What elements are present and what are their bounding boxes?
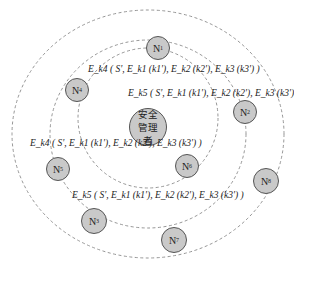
node-n5: N5 — [46, 157, 70, 181]
node-n1: N1 — [146, 36, 170, 60]
node-label: N — [89, 216, 96, 227]
formula-f3: E_k4 ( S', E_k1 (k1'), E_k2 (k2'), E_k3 … — [30, 138, 202, 148]
node-sub: 7 — [176, 237, 179, 243]
node-sub: 6 — [189, 163, 192, 169]
formula-text: E_k5 ( S', E_k1 (k1'), E_k2 (k2'), E_k3 … — [72, 190, 244, 200]
formula-text: E_k4 ( S', E_k1 (k1'), E_k2 (k2'), E_k3 … — [30, 138, 202, 148]
node-label: N — [182, 161, 189, 172]
formula-text: E_k5 ( S', E_k1 (k1'), E_k2 (k2'), E_k3 … — [128, 88, 294, 98]
node-n7: N7 — [161, 227, 187, 253]
node-label: N — [240, 107, 247, 118]
node-sub: 1 — [160, 45, 163, 51]
node-sub: 4 — [79, 87, 82, 93]
formula-f2: E_k5 ( S', E_k1 (k1'), E_k2 (k2'), E_k3 … — [128, 88, 294, 98]
formula-f4: E_k5 ( S', E_k1 (k1'), E_k2 (k2'), E_k3 … — [72, 190, 244, 200]
node-label: N — [169, 235, 176, 246]
node-n8: N8 — [253, 168, 279, 194]
node-n2: N2 — [233, 100, 257, 124]
node-label: N — [72, 85, 79, 96]
node-sub: 5 — [60, 166, 63, 172]
node-n4: N4 — [65, 78, 89, 102]
node-sub: 2 — [247, 109, 250, 115]
node-label: N — [261, 176, 268, 187]
node-sub: 8 — [268, 178, 271, 184]
node-label: N — [153, 43, 160, 54]
node-label: N — [53, 164, 60, 175]
node-n6: N6 — [175, 154, 199, 178]
formula-f1: E_k4 ( S', E_k1 (k1'), E_k2 (k2'), E_k3 … — [88, 64, 260, 74]
node-n3: N3 — [81, 208, 107, 234]
formula-text: E_k4 ( S', E_k1 (k1'), E_k2 (k2'), E_k3 … — [88, 64, 260, 74]
node-sub: 3 — [96, 218, 99, 224]
